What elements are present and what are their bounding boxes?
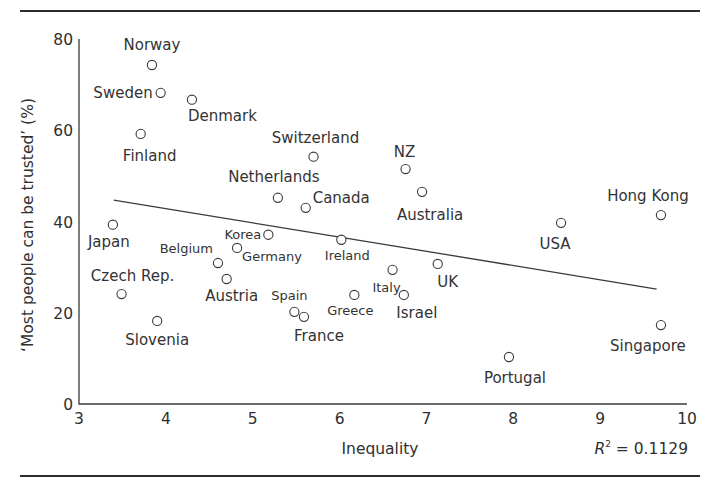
y-axis-title: ‘Most people can be trusted’ (%) — [19, 98, 37, 352]
x-axis-ticks: 345678910 — [74, 410, 697, 428]
data-point-greece: Greece — [327, 290, 373, 318]
data-point-italy: Italy — [372, 265, 401, 295]
point-label: Israel — [396, 304, 437, 322]
x-tick-label: 9 — [595, 410, 605, 428]
point-marker — [232, 243, 241, 252]
x-tick-label: 4 — [161, 410, 171, 428]
point-marker — [337, 235, 346, 244]
data-point-netherlands: Netherlands — [228, 168, 320, 203]
point-marker — [147, 60, 156, 69]
point-label: Czech Rep. — [91, 267, 174, 285]
point-marker — [504, 352, 513, 361]
data-point-belgium: Belgium — [160, 241, 223, 268]
point-label: Spain — [271, 288, 307, 303]
point-label: UK — [437, 273, 459, 291]
data-point-norway: Norway — [124, 36, 181, 70]
y-tick-label: 80 — [53, 31, 73, 49]
point-label: USA — [540, 235, 572, 253]
x-tick-label: 8 — [508, 410, 518, 428]
data-point-slovenia: Slovenia — [125, 316, 189, 349]
data-point-canada: Canada — [301, 189, 370, 213]
x-tick-label: 10 — [677, 410, 697, 428]
point-label: Ireland — [325, 248, 370, 263]
point-label: Singapore — [610, 337, 686, 355]
x-axis-title: Inequality — [342, 440, 419, 458]
y-tick-label: 0 — [63, 396, 73, 414]
data-point-sweden: Sweden — [93, 84, 165, 102]
point-label: Hong Kong — [607, 187, 689, 205]
point-marker — [187, 95, 196, 104]
point-marker — [301, 203, 310, 212]
r2-value: = 0.1129 — [611, 440, 688, 458]
point-label: Switzerland — [272, 129, 360, 147]
data-point-portugal: Portugal — [484, 352, 546, 387]
x-tick-label: 3 — [74, 410, 84, 428]
point-label: NZ — [394, 143, 416, 161]
point-label: Finland — [123, 147, 177, 165]
data-point-denmark: Denmark — [187, 95, 257, 125]
point-marker — [656, 320, 665, 329]
y-tick-label: 20 — [53, 305, 73, 323]
point-label: Canada — [313, 189, 370, 207]
data-point-singapore: Singapore — [610, 320, 686, 355]
point-marker — [433, 259, 442, 268]
point-label: Australia — [397, 206, 463, 224]
point-marker — [222, 274, 231, 283]
x-tick-label: 5 — [248, 410, 258, 428]
point-marker — [388, 265, 397, 274]
r-squared-annotation: R2 = 0.1129 — [594, 439, 688, 458]
data-point-usa: USA — [540, 218, 572, 253]
data-points: NorwaySwedenDenmarkFinlandSwitzerlandNZN… — [87, 36, 689, 387]
scatter-chart: 020406080 345678910 ‘Most people can be … — [0, 0, 715, 487]
data-point-australia: Australia — [397, 187, 463, 224]
y-tick-label: 40 — [53, 214, 73, 232]
point-marker — [299, 312, 308, 321]
x-tick-label: 6 — [335, 410, 345, 428]
axes — [79, 39, 687, 404]
y-axis-ticks: 020406080 — [53, 31, 73, 414]
point-marker — [399, 290, 408, 299]
point-label: France — [294, 327, 344, 345]
point-marker — [401, 164, 410, 173]
data-point-czech-rep: Czech Rep. — [91, 267, 174, 299]
point-marker — [108, 220, 117, 229]
point-marker — [264, 230, 273, 239]
point-marker — [136, 129, 145, 138]
data-point-israel: Israel — [396, 290, 437, 322]
point-label: Portugal — [484, 369, 546, 387]
point-label: Denmark — [188, 107, 257, 125]
point-marker — [156, 88, 165, 97]
point-marker — [273, 193, 282, 202]
y-tick-label: 60 — [53, 122, 73, 140]
r2-symbol: R — [594, 440, 605, 458]
point-label: Sweden — [93, 84, 152, 102]
data-point-ireland: Ireland — [325, 235, 370, 263]
point-label: Slovenia — [125, 331, 189, 349]
point-label: Greece — [327, 303, 373, 318]
point-marker — [656, 211, 665, 220]
point-label: Italy — [372, 280, 401, 295]
point-label: Japan — [87, 233, 130, 251]
point-label: Austria — [205, 287, 258, 305]
point-label: Belgium — [160, 241, 213, 256]
point-marker — [153, 316, 162, 325]
data-point-austria: Austria — [205, 274, 258, 305]
point-marker — [290, 307, 299, 316]
x-tick-label: 7 — [421, 410, 431, 428]
point-marker — [213, 258, 222, 267]
point-marker — [117, 289, 126, 298]
data-point-uk: UK — [433, 259, 459, 291]
point-label: Korea — [224, 227, 261, 242]
data-point-japan: Japan — [87, 220, 130, 251]
data-point-nz: NZ — [394, 143, 416, 174]
point-label: Netherlands — [228, 168, 320, 186]
data-point-korea: Korea — [224, 227, 272, 242]
point-marker — [417, 187, 426, 196]
data-point-finland: Finland — [123, 129, 177, 165]
point-marker — [309, 152, 318, 161]
point-label: Norway — [124, 36, 181, 54]
point-label: Germany — [242, 249, 302, 264]
data-point-hong-kong: Hong Kong — [607, 187, 689, 220]
point-marker — [350, 290, 359, 299]
data-point-germany: Germany — [232, 243, 302, 264]
